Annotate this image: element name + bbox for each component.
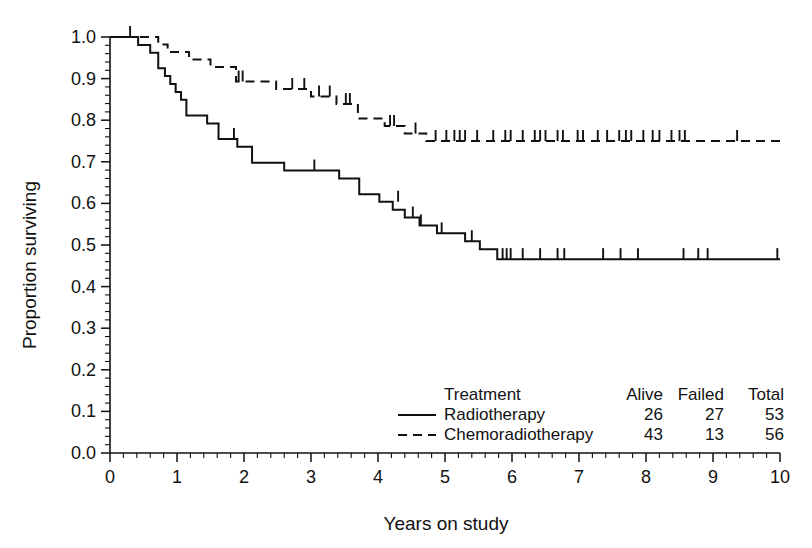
legend-total-radiotherapy: 53 [765, 405, 784, 424]
legend-alive-chemoradiotherapy: 43 [644, 425, 663, 444]
y-axis: 0.00.10.20.30.40.50.60.70.80.91.0 [71, 27, 110, 463]
kaplan-meier-plot: 0.00.10.20.30.40.50.60.70.80.91.0 012345… [0, 0, 812, 548]
legend-header-failed: Failed [678, 385, 724, 404]
y-tick-label: 0.5 [71, 235, 96, 255]
survival-curves [110, 37, 780, 259]
y-tick-label: 0.6 [71, 193, 96, 213]
legend-alive-radiotherapy: 26 [644, 405, 663, 424]
y-tick-label: 0.4 [71, 277, 96, 297]
y-tick-label: 0.7 [71, 152, 96, 172]
legend: TreatmentAliveFailedTotalRadiotherapy262… [398, 385, 784, 444]
x-tick-label: 0 [105, 467, 115, 487]
y-tick-label: 1.0 [71, 27, 96, 47]
x-tick-label: 6 [507, 467, 517, 487]
x-tick-label: 2 [239, 467, 249, 487]
curve-radiotherapy [110, 37, 780, 259]
y-tick-label: 0.3 [71, 318, 96, 338]
y-tick-label: 0.0 [71, 443, 96, 463]
legend-header-alive: Alive [626, 385, 663, 404]
x-tick-label: 1 [172, 467, 182, 487]
x-tick-label: 9 [708, 467, 718, 487]
legend-label-chemoradiotherapy: Chemoradiotherapy [444, 425, 594, 444]
legend-failed-chemoradiotherapy: 13 [705, 425, 724, 444]
legend-total-chemoradiotherapy: 56 [765, 425, 784, 444]
x-axis-title: Years on study [384, 513, 509, 534]
censoring-marks [130, 26, 777, 259]
survival-chart-figure: 0.00.10.20.30.40.50.60.70.80.91.0 012345… [0, 0, 812, 548]
y-tick-label: 0.2 [71, 360, 96, 380]
x-tick-label: 5 [440, 467, 450, 487]
legend-header-total: Total [748, 385, 784, 404]
curve-chemoradiotherapy [110, 37, 780, 141]
x-tick-label: 3 [306, 467, 316, 487]
y-tick-label: 0.1 [71, 401, 96, 421]
y-tick-label: 0.8 [71, 110, 96, 130]
y-axis-title: Proportion surviving [19, 181, 40, 349]
x-tick-label: 4 [373, 467, 383, 487]
legend-failed-radiotherapy: 27 [705, 405, 724, 424]
legend-header-treatment: Treatment [444, 385, 521, 404]
x-tick-label: 7 [574, 467, 584, 487]
legend-label-radiotherapy: Radiotherapy [444, 405, 546, 424]
y-tick-label: 0.9 [71, 69, 96, 89]
x-axis: 012345678910 [105, 453, 790, 487]
x-tick-label: 10 [770, 467, 790, 487]
x-tick-label: 8 [641, 467, 651, 487]
